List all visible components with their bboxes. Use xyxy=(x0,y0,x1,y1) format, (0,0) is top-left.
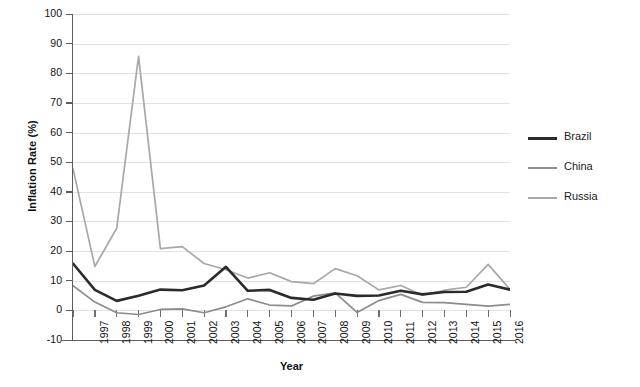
series-line-russia xyxy=(73,56,510,295)
y-tick-label: 60 xyxy=(30,127,62,138)
x-axis-title: Year xyxy=(73,360,510,372)
plot-area xyxy=(73,14,510,340)
chart-figure: Inflation Rate (%) 100908070605040302010… xyxy=(0,0,640,387)
y-tick-mark xyxy=(66,251,73,252)
y-tick-mark xyxy=(66,102,73,103)
y-tick-mark xyxy=(66,340,73,341)
legend-label: Brazil xyxy=(564,130,592,142)
y-tick-label: 40 xyxy=(30,186,62,197)
legend-item-china[interactable]: China xyxy=(528,158,636,188)
y-tick-label: 80 xyxy=(30,67,62,78)
y-tick-mark xyxy=(66,43,73,44)
y-tick-mark xyxy=(66,221,73,222)
y-tick-mark xyxy=(66,14,73,15)
y-tick-label: 0 xyxy=(30,304,62,315)
y-tick-label: -10 xyxy=(30,334,62,345)
legend-swatch-china xyxy=(528,167,557,169)
legend-swatch-brazil xyxy=(528,137,557,140)
legend-label: China xyxy=(564,160,593,172)
y-tick-label: 70 xyxy=(30,97,62,108)
y-tick-mark xyxy=(66,162,73,163)
y-tick-mark xyxy=(66,191,73,192)
y-tick-label: 90 xyxy=(30,38,62,49)
legend-swatch-russia xyxy=(528,197,557,199)
y-tick-label: 50 xyxy=(30,156,62,167)
y-tick-mark xyxy=(66,73,73,74)
legend-item-brazil[interactable]: Brazil xyxy=(528,128,636,158)
y-tick-mark xyxy=(66,280,73,281)
y-tick-label: 20 xyxy=(30,245,62,256)
legend-item-russia[interactable]: Russia xyxy=(528,188,636,218)
chart-legend: BrazilChinaRussia xyxy=(528,128,636,218)
y-tick-label: 10 xyxy=(30,275,62,286)
y-tick-mark xyxy=(66,132,73,133)
y-tick-label: 30 xyxy=(30,215,62,226)
x-tick-label: 2016 xyxy=(514,321,525,344)
y-tick-label: 100 xyxy=(30,8,62,19)
legend-label: Russia xyxy=(564,190,598,202)
data-series-layer xyxy=(73,14,510,340)
